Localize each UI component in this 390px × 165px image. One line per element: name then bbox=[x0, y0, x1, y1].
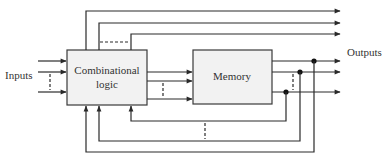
combinational-label-line2: logic bbox=[96, 78, 118, 90]
sequential-circuit-diagram: Inputs Combinational logic Memory Output… bbox=[0, 0, 390, 165]
combinational-label-line1: Combinational bbox=[74, 64, 139, 76]
outputs-label: Outputs bbox=[347, 46, 382, 58]
comb-to-memory-arrows bbox=[147, 72, 192, 99]
combinational-direct-outputs bbox=[86, 11, 340, 50]
memory-block: Memory bbox=[193, 50, 272, 104]
inputs-label: Inputs bbox=[5, 69, 33, 81]
memory-outputs bbox=[272, 61, 340, 92]
memory-label: Memory bbox=[213, 70, 251, 82]
input-arrows bbox=[38, 61, 66, 92]
combinational-logic-block: Combinational logic bbox=[67, 50, 147, 105]
